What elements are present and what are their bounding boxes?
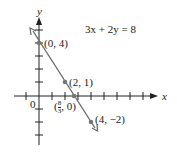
point-label-8-3-0: (83, 0) <box>54 100 76 115</box>
y-axis-label: y <box>37 6 42 17</box>
equation-label: 3x + 2y = 8 <box>85 24 136 35</box>
point-label-2-1: (2, 1) <box>69 77 93 88</box>
y-axis-arrow-icon <box>36 17 42 25</box>
x-axis-label: x <box>162 91 167 102</box>
origin-label: 0 <box>30 99 36 110</box>
point-label-4-neg2: (4, −2) <box>95 114 125 125</box>
point-2-1 <box>63 80 68 85</box>
point-4-neg2 <box>89 120 94 125</box>
x-axis-arrow-icon <box>150 93 158 99</box>
point-label-0-4: (0, 4) <box>44 38 68 49</box>
point-0-4 <box>37 41 42 46</box>
point-8-3-0 <box>72 94 77 99</box>
